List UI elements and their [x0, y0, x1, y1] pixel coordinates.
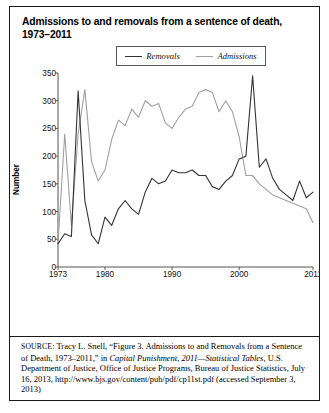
figure-container: Admissions to and removals from a senten…	[9, 6, 320, 401]
source-text: SOURCE: Tracy L. Snell, “Figure 3. Admis…	[21, 341, 309, 395]
page-title: Admissions to and removals from a senten…	[10, 7, 319, 41]
plot-area: Removals Admissions Number 0501001502002…	[10, 43, 319, 305]
tick-marks	[55, 73, 313, 270]
chart-canvas	[10, 43, 320, 305]
data-series-layer	[58, 76, 313, 244]
source-prefix: SOURCE:	[21, 342, 54, 351]
axis-lines	[58, 73, 313, 267]
series-line-admissions	[58, 90, 313, 244]
source-note: SOURCE: Tracy L. Snell, “Figure 3. Admis…	[10, 336, 319, 400]
series-line-removals	[58, 76, 313, 244]
source-italic-title: Capital Punishment, 2011—Statistical Tab…	[109, 353, 263, 363]
